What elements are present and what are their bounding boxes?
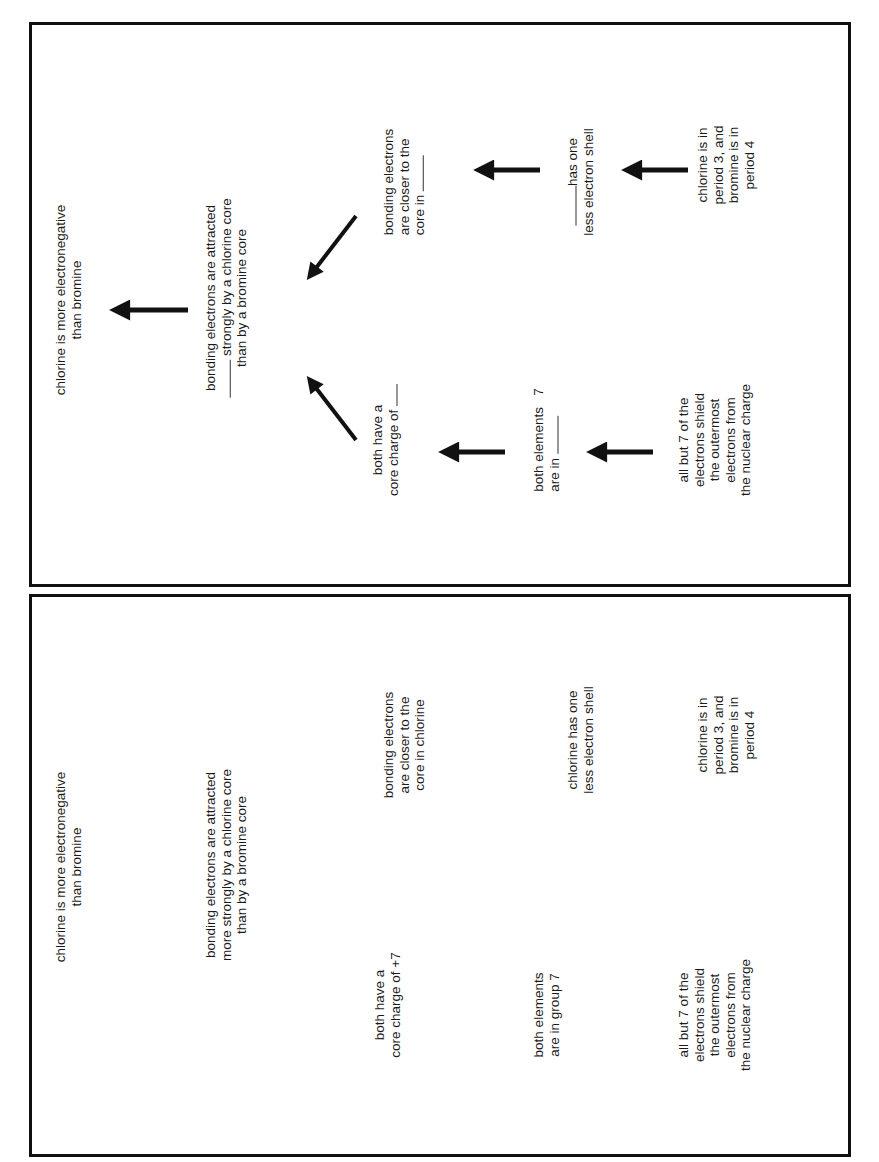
text-line: period 3, and (711, 126, 727, 205)
main-reason-text: bonding electrons are attracted more str… (203, 769, 250, 961)
text-fragment: are in (546, 458, 561, 492)
text-line: both have a (372, 952, 388, 1057)
text-line: chlorine is more electronegative (53, 772, 69, 963)
text-line: period 4 (742, 696, 758, 775)
text-line: core charge of (385, 384, 401, 496)
text-line: the outermost (707, 384, 723, 496)
closer-core-text-blank: bonding electrons are closer to the core… (381, 129, 428, 236)
text-line: core in (412, 129, 428, 236)
text-line: electrons from (723, 959, 739, 1071)
text-line: both elements 7 (531, 388, 547, 492)
text-line: less electron shell (580, 128, 596, 235)
text-line: less electron shell (580, 686, 596, 793)
fill-in-blank[interactable] (422, 155, 424, 191)
text-line: than by a bromine core (234, 769, 250, 961)
text-line: than bromine (68, 772, 84, 963)
text-line: bonding electrons are attracted (203, 769, 219, 961)
core-charge-text-blank: both have a core charge of (370, 384, 401, 496)
arrow-diagonal-icon (316, 216, 356, 268)
text-line: electrons shield (692, 384, 708, 496)
text-line: period 3, and (711, 696, 727, 775)
period-text: chlorine is in period 3, and bromine is … (695, 126, 757, 205)
shielding-text: all but 7 of the electrons shield the ou… (676, 384, 754, 496)
conclusion-text: chlorine is more electronegative than br… (53, 772, 84, 963)
text-line: are in (546, 388, 562, 492)
text-line: electrons shield (692, 959, 708, 1071)
fill-in-blank[interactable] (395, 384, 397, 406)
text-line: all but 7 of the (676, 384, 692, 496)
conclusion-text: chlorine is more electronegative than br… (53, 205, 84, 396)
closer-core-text: bonding electrons are closer to the core… (381, 692, 428, 799)
electron-shell-text-blank: has one less electron shell (565, 128, 596, 235)
text-fragment: both elements (531, 407, 546, 492)
text-line: chlorine is in (695, 696, 711, 775)
text-line: core charge of +7 (387, 952, 403, 1057)
main-reason-text-blank: bonding electrons are attracted strongly… (203, 198, 250, 397)
text-line: are closer to the (396, 692, 412, 799)
fill-in-blank[interactable] (575, 186, 577, 226)
shielding-text: all but 7 of the electrons shield the ou… (676, 959, 754, 1071)
text-line: bromine is in (726, 696, 742, 775)
text-fragment: 7 (531, 388, 546, 396)
text-line: has one (565, 128, 581, 235)
text-line: chlorine has one (565, 686, 581, 793)
text-line: bonding electrons (381, 692, 397, 799)
text-line: both have a (370, 384, 386, 496)
core-charge-text: both have a core charge of +7 (372, 952, 403, 1057)
text-line: the nuclear charge (738, 959, 754, 1071)
text-line: are in group 7 (546, 973, 562, 1058)
text-line: are closer to the (396, 129, 412, 236)
text-line: chlorine is more electronegative (53, 205, 69, 396)
text-line: than bromine (68, 205, 84, 396)
text-line: than by a bromine core (234, 198, 250, 397)
text-fragment: core charge of (385, 410, 400, 496)
concept-map-panel-answers (29, 594, 851, 1157)
text-line: bromine is in (726, 126, 742, 205)
text-line: core in chlorine (412, 692, 428, 799)
text-fragment: has one (565, 138, 580, 186)
text-line: chlorine is in (695, 126, 711, 205)
group-text: both elements are in group 7 (531, 973, 562, 1058)
arrow-diagonal-icon (316, 388, 356, 440)
group-text-blank: both elements 7 are in (531, 388, 562, 492)
period-text: chlorine is in period 3, and bromine is … (695, 696, 757, 775)
text-line: bonding electrons are attracted (203, 198, 219, 397)
text-line: strongly by a chlorine core (218, 198, 234, 397)
fill-in-blank[interactable] (556, 416, 558, 454)
text-line: all but 7 of the (676, 959, 692, 1071)
text-fragment: core in (412, 195, 427, 236)
text-line: both elements (531, 973, 547, 1058)
electron-shell-text: chlorine has one less electron shell (565, 686, 596, 793)
text-line: period 4 (742, 126, 758, 205)
text-fragment: strongly by a chlorine core (218, 198, 233, 356)
text-line: the outermost (707, 959, 723, 1071)
text-line: electrons from (723, 384, 739, 496)
text-line: bonding electrons (381, 129, 397, 236)
fill-in-blank[interactable] (228, 360, 230, 398)
text-line: the nuclear charge (738, 384, 754, 496)
text-line: more strongly by a chlorine core (218, 769, 234, 961)
